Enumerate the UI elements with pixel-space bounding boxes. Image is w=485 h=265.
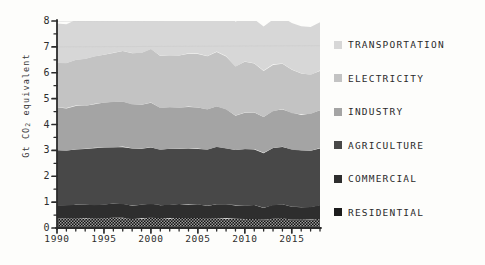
legend-swatch-icon — [334, 175, 342, 183]
legend-swatch-icon — [334, 74, 342, 82]
y-axis-tick-label: 3 — [32, 144, 50, 155]
plot-area — [57, 21, 320, 228]
x-axis-tick-label: 1990 — [44, 233, 69, 244]
legend-item-label: ELECTRICITY — [348, 73, 424, 84]
legend-item-label: INDUSTRY — [348, 106, 403, 117]
stacked-area-chart: Gt CO2 equivalent 012345678 199019952000… — [0, 0, 485, 265]
x-axis-tick-labels: 199019952000200520102015 — [0, 233, 485, 253]
x-axis-tick-label: 2015 — [279, 233, 304, 244]
y-axis-tick-label: 1 — [32, 196, 50, 207]
legend-item-label: TRANSPORTATION — [348, 39, 445, 50]
legend-item-label: AGRICULTURE — [348, 140, 424, 151]
area-series-agriculture — [57, 147, 320, 208]
legend-item-label: RESIDENTIAL — [348, 207, 424, 218]
x-axis-tick-label: 1995 — [91, 233, 116, 244]
x-axis-tick-label: 2010 — [232, 233, 257, 244]
legend-item: RESIDENTIAL — [334, 196, 482, 230]
y-axis-tick-label: 6 — [32, 67, 50, 78]
legend-item-label: COMMERCIAL — [348, 173, 417, 184]
y-axis-tick-label: 8 — [32, 15, 50, 26]
area-series-commercial — [57, 204, 320, 220]
legend-swatch-icon — [334, 141, 342, 149]
legend-item: AGRICULTURE — [334, 129, 482, 163]
y-axis-tick-label: 7 — [32, 41, 50, 52]
area-layers — [57, 21, 320, 228]
y-axis-tick-label: 4 — [32, 119, 50, 130]
y-axis-tick-label: 5 — [32, 93, 50, 104]
legend-item: ELECTRICITY — [334, 62, 482, 96]
legend-swatch-icon — [334, 108, 342, 116]
legend-item: TRANSPORTATION — [334, 28, 482, 62]
legend-item: INDUSTRY — [334, 95, 482, 129]
x-axis-tick-label: 2005 — [185, 233, 210, 244]
area-series-residential — [57, 217, 320, 228]
legend-swatch-icon — [334, 208, 342, 216]
y-axis-tick-labels: 012345678 — [28, 0, 50, 265]
x-axis-tick-label: 2000 — [138, 233, 163, 244]
y-axis-tick-label: 0 — [32, 222, 50, 233]
chart-legend: TRANSPORTATIONELECTRICITYINDUSTRYAGRICUL… — [334, 28, 482, 229]
legend-item: COMMERCIAL — [334, 162, 482, 196]
legend-swatch-icon — [334, 41, 342, 49]
y-axis-tick-label: 2 — [32, 170, 50, 181]
